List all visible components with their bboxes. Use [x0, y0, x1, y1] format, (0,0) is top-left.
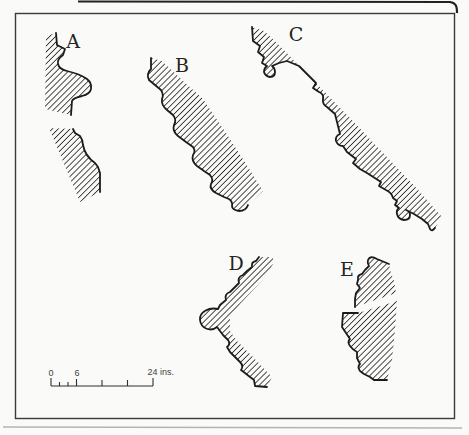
scalebar-end-label: 24 ins. — [147, 367, 174, 377]
scalebar-zero-label: 0 — [48, 368, 53, 378]
scanned-figure-page: A B C D E 0 6 24 ins. — [0, 0, 469, 435]
profile-a-label: A — [65, 30, 80, 52]
profile-d-label: D — [228, 252, 243, 274]
profile-b-label: B — [175, 54, 189, 76]
moulding-profiles-figure: A B C D E 0 6 24 ins. — [0, 0, 469, 435]
profile-c-label: C — [289, 23, 304, 45]
profile-e-label: E — [340, 258, 354, 280]
scalebar-six-label: 6 — [74, 368, 79, 378]
page-shadow-line — [3, 427, 462, 428]
